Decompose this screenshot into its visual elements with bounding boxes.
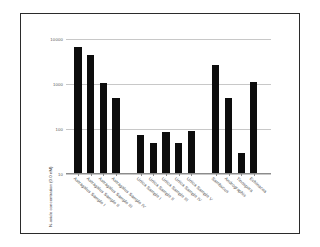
y-axis-title: N-oxide concentration (0.0 nM) xyxy=(48,167,53,228)
y-axis-tick-label: 10 xyxy=(58,172,63,177)
bar xyxy=(175,143,182,174)
gridline xyxy=(66,174,271,175)
bar xyxy=(100,83,107,174)
bar xyxy=(212,65,219,174)
y-axis-tick-label: 10000 xyxy=(50,37,63,42)
y-axis-tick-label: 100 xyxy=(55,127,63,132)
bar-series xyxy=(66,39,271,174)
y-axis-tick-label: 1000 xyxy=(53,82,63,87)
plot-area: 10000100010010 xyxy=(66,39,271,174)
x-axis-line xyxy=(66,173,271,174)
bar xyxy=(150,143,157,174)
bar xyxy=(74,47,81,174)
bar xyxy=(238,153,245,174)
bar xyxy=(188,131,195,174)
bar xyxy=(137,135,144,174)
bar xyxy=(250,82,257,174)
x-axis-labels: Astragalus Sample IAstragalus Sample IIA… xyxy=(66,176,281,231)
bar xyxy=(112,98,119,174)
figure-frame: N-oxide concentration (0.0 nM) 100001000… xyxy=(20,13,300,234)
bar xyxy=(87,55,94,174)
bar xyxy=(162,132,169,174)
bar xyxy=(225,98,232,174)
